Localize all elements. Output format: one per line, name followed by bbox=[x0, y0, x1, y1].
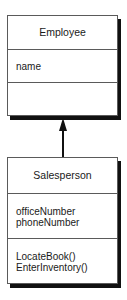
class-name: Employee bbox=[8, 16, 117, 49]
operations-compartment bbox=[8, 82, 117, 115]
attributes-compartment: officeNumber phoneNumber bbox=[8, 193, 117, 238]
operation: LocateBook() bbox=[16, 251, 109, 262]
operation: EnterInventory() bbox=[16, 262, 109, 273]
class-name: Salesperson bbox=[8, 158, 117, 193]
class-salesperson[interactable]: Salesperson officeNumber phoneNumber Loc… bbox=[7, 157, 118, 284]
attributes-compartment: name bbox=[8, 49, 117, 82]
attribute: phoneNumber bbox=[16, 217, 109, 228]
attribute: name bbox=[16, 61, 109, 72]
class-employee[interactable]: Employee name bbox=[7, 15, 118, 116]
attribute: officeNumber bbox=[16, 206, 109, 217]
class-name-text: Employee bbox=[39, 27, 86, 38]
operations-compartment: LocateBook() EnterInventory() bbox=[8, 238, 117, 283]
class-name-text: Salesperson bbox=[33, 170, 91, 181]
